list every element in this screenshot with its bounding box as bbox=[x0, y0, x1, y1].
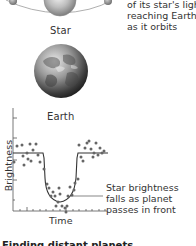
earth-illustration bbox=[33, 43, 89, 99]
caption-line: reaching Earth bbox=[127, 10, 196, 21]
x-axis-label: Time bbox=[49, 215, 73, 226]
star-orbit-icon bbox=[0, 0, 130, 24]
measured-points bbox=[13, 140, 106, 214]
orbit-diagram: Star of its star's light reaching Earth … bbox=[0, 0, 196, 38]
caption-line: as it orbits bbox=[127, 21, 196, 32]
y-axis-label: Brightness bbox=[3, 136, 14, 196]
earth-globe-icon bbox=[33, 43, 89, 99]
caption-line: of its star's light bbox=[127, 0, 196, 10]
bottom-heading-partial: Finding distant planets bbox=[2, 240, 133, 246]
annotation-line: Star brightness bbox=[106, 182, 196, 193]
orbit-caption: of its star's light reaching Earth as it… bbox=[127, 0, 196, 32]
transit-annotation: Star brightness falls as planet passes i… bbox=[106, 182, 196, 215]
star-label: Star bbox=[50, 25, 71, 36]
annotation-line: passes in front bbox=[106, 204, 196, 215]
annotation-line: falls as planet bbox=[106, 193, 196, 204]
light-curve-chart: Brightness Time Star brightness falls as… bbox=[0, 108, 196, 232]
